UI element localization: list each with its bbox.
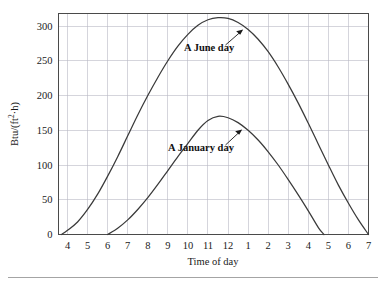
y-axis-title-tail: ·h) xyxy=(9,102,21,115)
x-tick-label-9: 9 xyxy=(165,240,170,251)
x-tick-label-11: 11 xyxy=(203,240,213,251)
x-tick-label-6: 6 xyxy=(346,240,351,251)
series-label-january: A January day xyxy=(168,142,235,153)
y-tick-label-100: 100 xyxy=(37,160,53,171)
x-axis-title: Time of day xyxy=(188,256,240,267)
y-axis-title-base: Btu/(ft xyxy=(9,118,21,146)
chart-figure: 050100150200250300 4567891011121234567 A… xyxy=(0,0,386,283)
x-tick-label-7: 7 xyxy=(366,240,371,251)
x-tick-label-5: 5 xyxy=(85,240,90,251)
x-tick-label-4: 4 xyxy=(65,240,71,251)
y-tick-label-150: 150 xyxy=(37,125,53,136)
chart-canvas: 050100150200250300 4567891011121234567 A… xyxy=(0,0,386,283)
x-tick-label-8: 8 xyxy=(145,240,150,251)
x-tick-label-7: 7 xyxy=(125,240,130,251)
x-tick-label-1: 1 xyxy=(245,240,250,251)
x-tick-label-4: 4 xyxy=(306,240,312,251)
y-tick-label-300: 300 xyxy=(37,21,53,32)
y-tick-label-50: 50 xyxy=(42,194,53,205)
x-tick-label-3: 3 xyxy=(286,240,291,251)
y-tick-label-200: 200 xyxy=(37,90,53,101)
x-tick-label-12: 12 xyxy=(223,240,234,251)
y-tick-label-0: 0 xyxy=(47,229,52,240)
x-tick-label-2: 2 xyxy=(266,240,271,251)
x-tick-label-5: 5 xyxy=(326,240,331,251)
x-tick-label-6: 6 xyxy=(105,240,110,251)
y-axis-title-text: Btu/(ft2·h) xyxy=(7,102,21,146)
y-tick-label-250: 250 xyxy=(37,55,53,66)
x-tick-label-10: 10 xyxy=(183,240,194,251)
y-axis-title: Btu/(ft2·h) xyxy=(7,102,21,146)
